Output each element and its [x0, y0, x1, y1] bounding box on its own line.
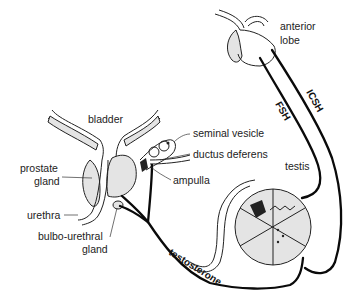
ampulla-label: ampulla — [173, 174, 210, 186]
testis-label: testis — [285, 160, 310, 172]
pituitary-gland — [215, 10, 275, 66]
prostate-gland-label-line2: gland — [34, 175, 60, 187]
prostate-gland — [83, 160, 100, 206]
bladder-label: bladder — [88, 113, 124, 125]
prostate-gland-label-line1: prostate — [20, 162, 58, 174]
anterior-lobe-label-line2: lobe — [280, 34, 300, 46]
testis — [235, 189, 311, 265]
ductus-deferens-label: ductus deferens — [193, 148, 268, 160]
bulbo-urethral-gland-label-line2: gland — [82, 243, 108, 255]
fsh-label: FSH — [273, 100, 293, 123]
bulbo-urethral-gland-label-line1: bulbo-urethral — [38, 230, 103, 242]
prostate-gland-right — [107, 155, 136, 197]
anterior-lobe-label-line1: anterior — [280, 20, 316, 32]
bulbo-urethral-gland — [113, 201, 123, 209]
seminal-vesicle — [140, 140, 175, 172]
seminal-vesicle-label: seminal vesicle — [193, 127, 264, 139]
male-reproductive-hormone-diagram: ICSH FSH anterior lobe testosterone — [0, 0, 352, 307]
urethra-label: urethra — [27, 209, 60, 221]
